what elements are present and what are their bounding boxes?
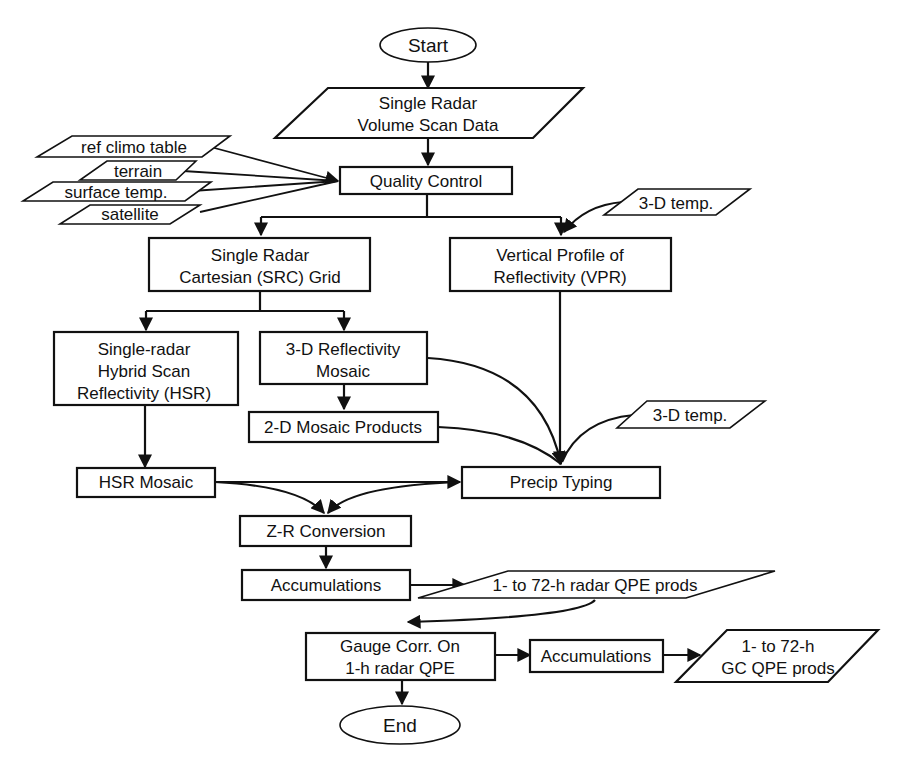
refl3d-line2: Mosaic [316, 362, 370, 381]
precip-typing-label: Precip Typing [510, 473, 613, 492]
edge-qc-split [261, 195, 561, 217]
node-start: Start [380, 28, 476, 62]
node-terrain: terrain [80, 161, 196, 181]
accum1-label: Accumulations [271, 576, 382, 595]
gc-qpe-line2: GC QPE prods [721, 659, 834, 678]
start-label: Start [408, 35, 449, 56]
node-ref-climo: ref climo table [37, 136, 230, 157]
end-label: End [383, 715, 417, 736]
edge-precip-zr [328, 482, 460, 513]
node-radar-qpe-prods: 1- to 72-h radar QPE prods [418, 571, 775, 598]
node-gc-qpe-prods: 1- to 72-h GC QPE prods [676, 630, 878, 682]
edge-hsrmosaic-zr [215, 482, 324, 513]
edge-radarqpe-gauge [408, 600, 595, 622]
accum2-label: Accumulations [541, 647, 652, 666]
refl3d-line1: 3-D Reflectivity [286, 340, 401, 359]
volume-scan-line2: Volume Scan Data [358, 116, 499, 135]
node-src-grid: Single Radar Cartesian (SRC) Grid [149, 238, 370, 291]
hsr-mosaic-label: HSR Mosaic [99, 473, 194, 492]
edge-refclimo-qc [207, 146, 338, 181]
satellite-label: satellite [101, 205, 159, 224]
hsr-line1: Single-radar [98, 340, 191, 359]
vpr-line1: Vertical Profile of [496, 246, 624, 265]
mosaic2d-label: 2-D Mosaic Products [264, 418, 422, 437]
hsr-line2: Hybrid Scan [98, 362, 191, 381]
edge-mosaic2d-precip [438, 427, 561, 464]
gauge-corr-line2: 1-h radar QPE [345, 659, 455, 678]
node-satellite: satellite [60, 205, 200, 224]
volume-scan-line1: Single Radar [379, 94, 478, 113]
node-zr-conversion: Z-R Conversion [240, 516, 411, 546]
node-accumulations-1: Accumulations [242, 570, 410, 600]
radar-qpe-label: 1- to 72-h radar QPE prods [492, 576, 697, 595]
node-3d-temp-a: 3-D temp. [604, 189, 750, 215]
node-3d-reflectivity-mosaic: 3-D Reflectivity Mosaic [260, 332, 427, 384]
node-gauge-corr: Gauge Corr. On 1-h radar QPE [306, 633, 495, 680]
zr-conversion-label: Z-R Conversion [266, 522, 385, 541]
vpr-line2: Reflectivity (VPR) [493, 268, 626, 287]
node-3d-temp-b: 3-D temp. [617, 401, 765, 428]
node-precip-typing: Precip Typing [462, 467, 660, 498]
node-hsr-mosaic: HSR Mosaic [77, 468, 215, 497]
src-grid-line2: Cartesian (SRC) Grid [179, 268, 341, 287]
gc-qpe-line1: 1- to 72-h [742, 637, 815, 656]
edge-refl3d-precip [428, 358, 561, 464]
edge-terrain-qc [183, 171, 338, 181]
temp3d-b-label: 3-D temp. [653, 406, 728, 425]
src-grid-line1: Single Radar [211, 246, 310, 265]
gauge-corr-line1: Gauge Corr. On [340, 637, 460, 656]
node-2d-mosaic-products: 2-D Mosaic Products [249, 412, 438, 442]
node-hsr: Single-radar Hybrid Scan Reflectivity (H… [54, 332, 238, 405]
quality-control-label: Quality Control [370, 172, 482, 191]
node-vpr: Vertical Profile of Reflectivity (VPR) [450, 238, 671, 291]
edge-src-split [146, 292, 344, 311]
node-accumulations-2: Accumulations [530, 640, 663, 672]
node-end: End [340, 706, 460, 744]
flowchart: Start Single Radar Volume Scan Data ref … [0, 0, 909, 767]
node-surface-temp: surface temp. [23, 182, 211, 202]
surface-temp-label: surface temp. [65, 183, 168, 202]
temp3d-a-label: 3-D temp. [639, 194, 714, 213]
node-quality-control: Quality Control [340, 167, 512, 194]
node-volume-scan: Single Radar Volume Scan Data [275, 88, 583, 138]
hsr-line3: Reflectivity (HSR) [77, 384, 211, 403]
terrain-label: terrain [114, 162, 162, 181]
ref-climo-label: ref climo table [81, 138, 187, 157]
